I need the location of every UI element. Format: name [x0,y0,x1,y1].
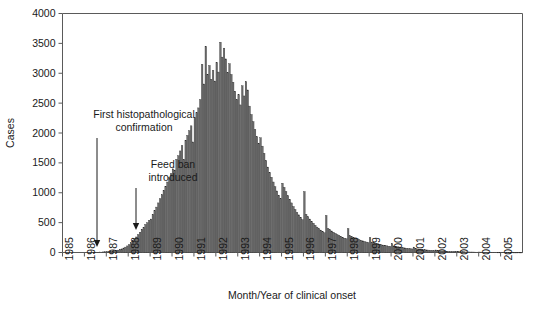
bar [187,135,189,252]
bar [119,249,121,252]
bar [450,251,452,252]
bar [300,217,302,252]
bar [127,246,129,253]
bar [278,195,280,252]
bar [256,137,258,253]
y-tick-label: 2500 [32,97,56,109]
bar [189,131,191,253]
x-tick-label: 1991 [195,237,207,261]
bar [408,248,410,252]
y-tick-label: 1000 [32,186,56,198]
bar [229,64,231,253]
bar [384,245,386,252]
bar [360,240,362,252]
bse-epidemic-curve-figure: 05001000150020002500300035004000 1985198… [0,0,533,311]
annotation-arrow-head [133,223,139,230]
bar [280,199,282,253]
bar [200,100,202,253]
bar [234,91,236,252]
bar [125,247,127,252]
bar [366,242,368,252]
bar [262,146,264,252]
bar [220,42,222,252]
bar [340,236,342,252]
x-tick-label: 1993 [239,237,251,261]
annotation-label-line1: First histopathological [93,108,195,120]
x-axis-title: Month/Year of clinical onset [228,289,356,301]
x-tick-label: 1990 [173,237,185,261]
x-tick-label: 1987 [107,237,119,261]
bar [254,129,256,252]
bar [216,63,218,253]
bar [198,108,200,253]
bar [344,238,346,252]
bar [318,229,320,253]
bar [214,81,216,252]
bar [247,90,249,253]
bar [190,126,192,253]
x-tick-label: 2003 [458,237,470,261]
bar [273,182,275,253]
bar [294,209,296,252]
bar [170,174,172,253]
bar [514,252,516,253]
bar [99,252,101,253]
bar [145,224,147,252]
bar [97,252,99,253]
x-tick-label: 1999 [370,237,382,261]
bar [409,249,411,253]
y-axis-title: Cases [4,118,16,148]
y-tick-label: 500 [38,216,56,228]
bar [388,246,390,252]
bar [451,252,453,253]
bar [426,250,428,253]
bar [346,239,348,253]
bar [276,191,278,253]
bar [296,212,298,252]
y-tick-label: 0 [50,246,56,258]
bar [243,96,245,253]
bar [338,235,340,252]
bar [453,252,455,253]
bar [448,251,450,252]
bar [209,65,211,252]
x-axis-ticks: 1985198619871988198919901991199219931994… [63,237,514,261]
bar [218,72,220,252]
bar [207,74,209,252]
x-tick-label: 2001 [414,237,426,261]
x-tick-label: 1997 [326,237,338,261]
x-tick-label: 1988 [129,237,141,261]
x-tick-label: 1996 [304,237,316,261]
bar [493,252,495,253]
bar [169,178,171,253]
bar [105,252,107,253]
bar [141,229,143,252]
bar [517,252,519,253]
bar [121,249,123,253]
bar [101,252,103,253]
bar [231,74,233,252]
bar [497,252,499,253]
bar [167,182,169,253]
bar [386,246,388,253]
bar [320,230,322,252]
bar [236,100,238,253]
x-tick-label: 2004 [480,237,492,261]
bar [123,248,125,252]
x-tick-label: 2005 [502,237,514,261]
bar [404,248,406,253]
bar [298,215,300,253]
bar [364,241,366,252]
bar [362,241,364,253]
bar [428,250,430,252]
x-tick-label: 1989 [151,237,163,261]
bar [242,86,244,253]
bar [148,220,150,252]
bar [203,84,205,253]
x-tick-label: 1998 [348,237,360,261]
bar [521,252,523,253]
bar [455,252,457,253]
bar [495,252,497,253]
y-tick-label: 3500 [32,37,56,49]
bar [260,138,262,253]
